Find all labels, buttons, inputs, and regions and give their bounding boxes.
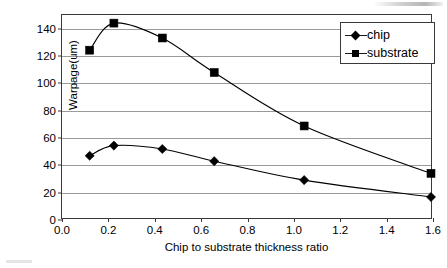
x-tick-mark (108, 218, 109, 222)
x-axis-title: Chip to substrate thickness ratio (62, 241, 431, 253)
scan-artifact-top (373, 2, 443, 6)
data-point-chip-0 (85, 151, 94, 160)
legend-entry-chip: chip (341, 26, 434, 44)
data-point-chip-3 (210, 157, 219, 166)
x-tick-mark (294, 218, 295, 222)
x-tick-label: 0.2 (100, 224, 116, 236)
square-marker-icon (345, 47, 367, 59)
legend-entry-substrate: substrate (341, 44, 434, 62)
data-point-substrate-0 (86, 46, 94, 54)
x-tick-label: 1.6 (425, 224, 441, 236)
x-tick-label: 1.0 (286, 224, 302, 236)
y-tick-label: 140 (37, 23, 56, 35)
data-point-substrate-2 (158, 34, 166, 42)
y-tick-label: 120 (37, 50, 56, 62)
x-tick-mark (155, 218, 156, 222)
series-line-chip (90, 145, 431, 197)
scan-artifact-bottom (6, 260, 32, 263)
x-tick-label: 1.4 (379, 224, 395, 236)
legend-label-chip: chip (367, 29, 390, 42)
x-tick-label: 0.8 (240, 224, 256, 236)
data-point-substrate-5 (427, 169, 435, 177)
x-tick-label: 0.0 (54, 224, 70, 236)
x-tick-label: 0.6 (193, 224, 209, 236)
x-tick-mark (201, 218, 202, 222)
x-tick-mark (387, 218, 388, 222)
plot-area: 020406080100120140 0.00.20.40.60.81.01.2… (61, 14, 432, 219)
x-tick-label: 0.4 (147, 224, 163, 236)
data-point-chip-1 (109, 141, 118, 150)
data-point-chip-4 (300, 176, 309, 185)
legend-label-substrate: substrate (367, 47, 418, 60)
warpage-chart-figure: 020406080100120140 0.00.20.40.60.81.01.2… (0, 0, 447, 268)
diamond-marker-icon (345, 29, 367, 41)
data-point-substrate-3 (210, 69, 218, 77)
x-tick-mark (340, 218, 341, 222)
y-tick-label: 60 (43, 132, 56, 144)
data-point-substrate-4 (300, 122, 308, 130)
y-tick-label: 40 (43, 159, 56, 171)
y-tick-label: 80 (43, 105, 56, 117)
data-point-substrate-1 (110, 19, 118, 27)
x-tick-mark (62, 218, 63, 222)
x-tick-mark (248, 218, 249, 222)
chart-legend: chip substrate (340, 22, 435, 64)
y-tick-label: 100 (37, 77, 56, 89)
y-axis-title: Warpage(um) (67, 15, 79, 135)
y-tick-label: 20 (43, 187, 56, 199)
data-point-chip-5 (426, 192, 435, 201)
x-tick-label: 1.2 (332, 224, 348, 236)
data-point-chip-2 (158, 144, 167, 153)
x-tick-mark (433, 218, 434, 222)
